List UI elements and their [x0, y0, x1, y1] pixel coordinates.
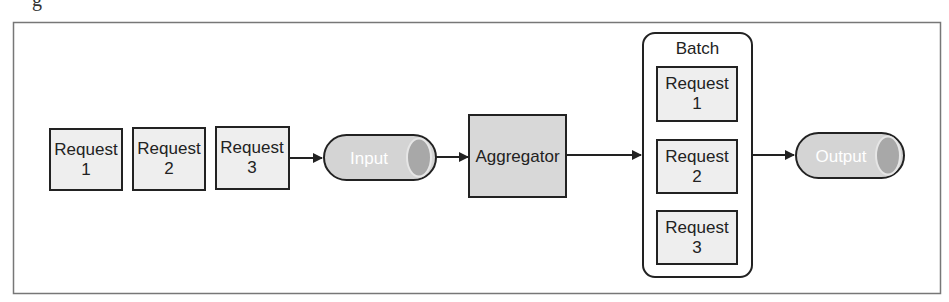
batch-request-1-label: Request: [665, 74, 729, 93]
batch-request-1-number: 1: [692, 94, 701, 113]
batch-request-2: Request 2: [657, 140, 737, 193]
queued-request-3: Request 3: [216, 127, 289, 189]
output-label: Output: [815, 147, 866, 166]
batch-title: Batch: [676, 39, 719, 58]
queued-request-2-number: 2: [164, 159, 173, 178]
batch-request-2-number: 2: [692, 167, 701, 186]
batch-request-3-label: Request: [665, 218, 729, 237]
queued-request-3-number: 3: [247, 158, 256, 177]
batch-request-2-label: Request: [665, 147, 729, 166]
queued-request-3-label: Request: [220, 138, 284, 157]
input-label: Input: [350, 149, 388, 168]
queued-request-1-number: 1: [81, 160, 90, 179]
queued-request-1-label: Request: [54, 140, 118, 159]
output-cylinder-cap: [876, 137, 900, 175]
batch-request-3-number: 3: [692, 238, 701, 257]
input-queue-cylinder: Input: [324, 135, 436, 180]
aggregator-label: Aggregator: [475, 147, 559, 166]
aggregator-box: Aggregator: [469, 115, 566, 197]
output-queue-cylinder: Output: [796, 133, 904, 178]
queued-request-2: Request 2: [133, 128, 205, 190]
queued-request-1: Request 1: [50, 129, 122, 190]
batch-request-3: Request 3: [657, 211, 737, 264]
input-cylinder-cap: [407, 139, 431, 177]
request-batching-diagram: Request 1 Request 2 Request 3 Input Aggr…: [0, 0, 949, 302]
batch-container: Batch Request 1 Request 2 Request 3: [643, 33, 752, 277]
batch-request-1: Request 1: [657, 67, 737, 121]
queued-request-2-label: Request: [137, 139, 201, 158]
